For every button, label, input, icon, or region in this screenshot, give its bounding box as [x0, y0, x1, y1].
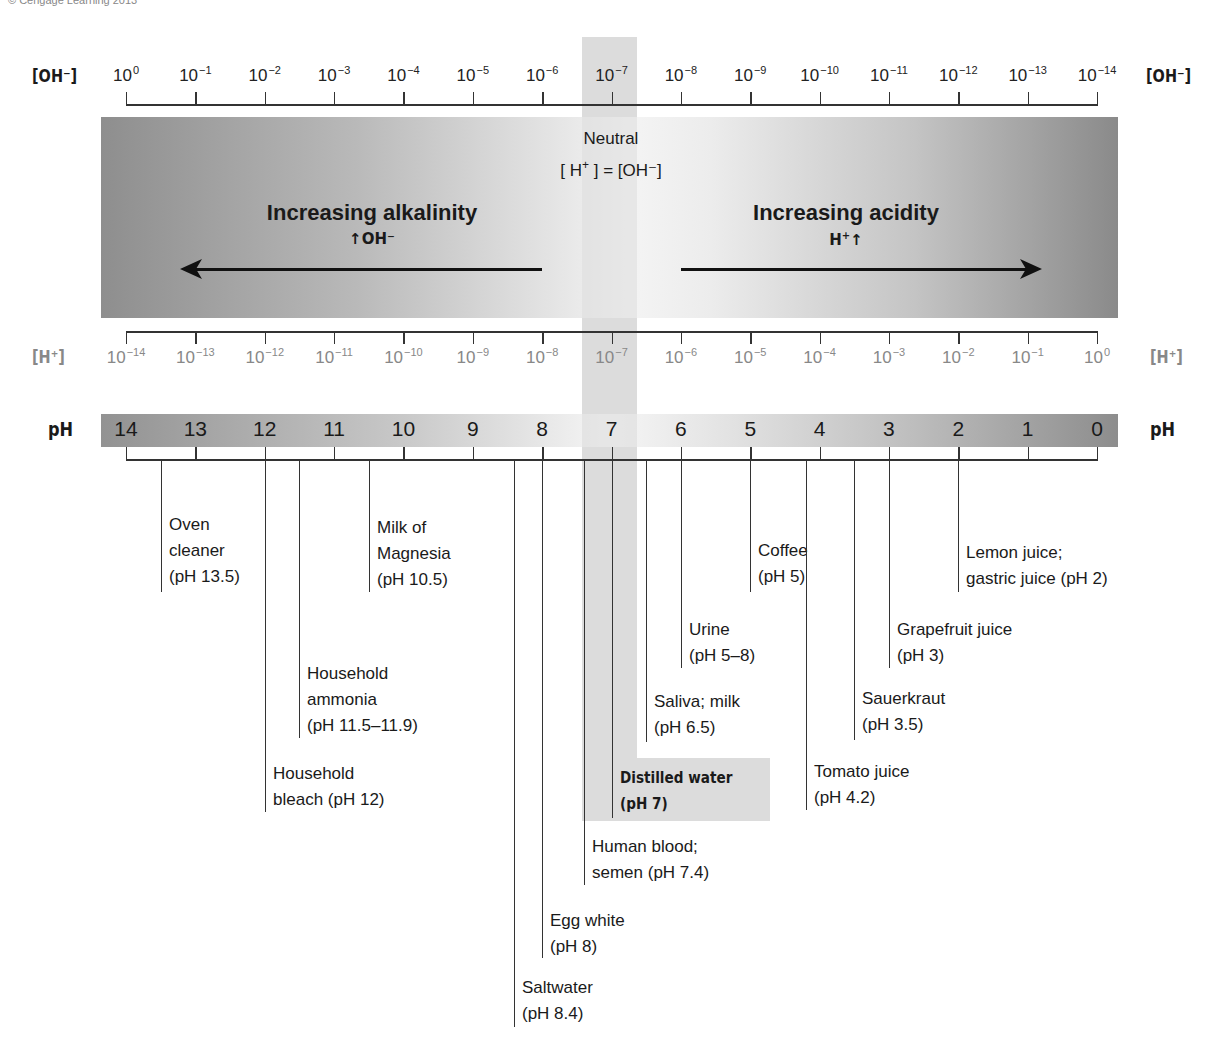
tick-base: 10	[457, 66, 476, 85]
acidity-arrow-shaft	[681, 268, 1027, 271]
h-tick-mark	[126, 331, 127, 344]
label-line: Household	[307, 661, 418, 687]
h-tick-label: 10−2	[942, 346, 974, 368]
tick-base: 10	[384, 348, 403, 367]
oh-tick-label: 10−4	[387, 64, 419, 86]
tick-base: 10	[1008, 66, 1027, 85]
ph-value: 1	[1022, 417, 1034, 441]
tick-exponent: −11	[890, 64, 908, 76]
h-tick-mark	[1097, 331, 1098, 344]
tick-exponent: −2	[268, 64, 281, 76]
tick-exponent: 0	[133, 64, 139, 76]
ph-tick-mark	[126, 447, 127, 460]
h-tick-label: 10−1	[1011, 346, 1043, 368]
h-tick-label: 10−9	[457, 346, 489, 368]
oh-tick-label: 10−7	[595, 64, 627, 86]
tick-exponent: −5	[754, 346, 767, 358]
tick-base: 10	[734, 66, 753, 85]
label-line: (pH 3.5)	[862, 712, 945, 738]
tick-base: 10	[315, 348, 334, 367]
tick-exponent: −2	[962, 346, 975, 358]
oh-tick-label: 10−13	[1008, 64, 1047, 86]
tick-exponent: −10	[820, 64, 839, 76]
tick-base: 10	[939, 66, 958, 85]
h-tick-label: 100	[1084, 346, 1110, 368]
oh-tick-label: 10−11	[870, 64, 908, 86]
label-line: Urine	[689, 617, 755, 643]
oh-tick-label: 10−1	[179, 64, 211, 86]
tick-base: 10	[595, 348, 614, 367]
tick-base: 10	[248, 66, 267, 85]
h-tick-mark	[750, 331, 751, 344]
tomato-juice-leader-line	[806, 459, 807, 810]
saltwater-leader-line	[514, 459, 515, 1027]
egg-white-leader-line	[542, 459, 543, 958]
tick-exponent: −11	[335, 346, 353, 358]
distilled-water-label: Distilled water(pH 7)	[620, 765, 732, 817]
oh-tick-label: 10−3	[318, 64, 350, 86]
ph-value: 6	[675, 417, 687, 441]
ph-value: 0	[1091, 417, 1103, 441]
tick-exponent: 0	[1104, 346, 1110, 358]
h-tick-label: 10−8	[526, 346, 558, 368]
oh-axis-label-left: [OH⁻]	[32, 66, 77, 86]
oh-tick-label: 10−10	[800, 64, 839, 86]
oven-cleaner-leader-line	[161, 459, 162, 592]
label-line: Sauerkraut	[862, 686, 945, 712]
ph-value: 7	[606, 417, 618, 441]
alkalinity-ion: OH⁻	[362, 230, 395, 248]
h-tick-label: 10−13	[176, 346, 215, 368]
lemon-juice-label: Lemon juice;gastric juice (pH 2)	[966, 540, 1108, 592]
tick-exponent: −3	[338, 64, 351, 76]
h-tick-label: 10−7	[595, 346, 627, 368]
tick-exponent: −14	[127, 346, 146, 358]
h-tick-mark	[612, 331, 613, 344]
label-line: (pH 8.4)	[522, 1001, 593, 1027]
ph-tick-mark	[195, 447, 196, 460]
human-blood-label: Human blood;semen (pH 7.4)	[592, 834, 709, 886]
label-line: semen (pH 7.4)	[592, 860, 709, 886]
tick-base: 10	[457, 348, 476, 367]
tick-exponent: −13	[196, 346, 215, 358]
neutral-eq-oh: ] = [OH⁻]	[589, 161, 662, 180]
tick-base: 10	[318, 66, 337, 85]
label-line: Saliva; milk	[654, 689, 740, 715]
ph-value: 13	[184, 417, 207, 441]
tick-base: 10	[803, 348, 822, 367]
up-arrow-icon: ↑	[349, 230, 362, 248]
h-tick-mark	[542, 331, 543, 344]
h-tick-mark	[889, 331, 890, 344]
grapefruit-juice-leader-line	[889, 459, 890, 668]
tick-exponent: −9	[476, 346, 489, 358]
tick-exponent: −8	[685, 64, 698, 76]
label-line: Human blood;	[592, 834, 709, 860]
tick-base: 10	[113, 66, 132, 85]
ph-value: 4	[814, 417, 826, 441]
label-line: Tomato juice	[814, 759, 909, 785]
label-line: (pH 10.5)	[377, 567, 451, 593]
h-tick-mark	[403, 331, 404, 344]
label-line: Lemon juice;	[966, 540, 1108, 566]
h-tick-label: 10−3	[873, 346, 905, 368]
ph-tick-mark	[1097, 447, 1098, 460]
tick-exponent: −12	[265, 346, 284, 358]
label-line: (pH 5–8)	[689, 643, 755, 669]
label-line: Grapefruit juice	[897, 617, 1012, 643]
tick-base: 10	[665, 348, 684, 367]
h-tick-mark	[195, 331, 196, 344]
oh-tick-label: 10−5	[457, 64, 489, 86]
tick-base: 10	[734, 348, 753, 367]
tick-base: 10	[873, 348, 892, 367]
household-bleach-leader-line	[265, 459, 266, 812]
ph-tick-mark	[1028, 447, 1029, 460]
oh-tick-label: 10−9	[734, 64, 766, 86]
left-arrow-icon	[180, 258, 204, 280]
household-ammonia-label: Householdammonia(pH 11.5–11.9)	[307, 661, 418, 739]
label-line: Magnesia	[377, 541, 451, 567]
oh-tick-label: 10−8	[665, 64, 697, 86]
up-arrow-icon: ↑	[850, 231, 863, 249]
h-tick-label: 10−14	[107, 346, 146, 368]
tick-base: 10	[176, 348, 195, 367]
tick-exponent: −7	[615, 64, 628, 76]
oh-tick-label: 10−6	[526, 64, 558, 86]
